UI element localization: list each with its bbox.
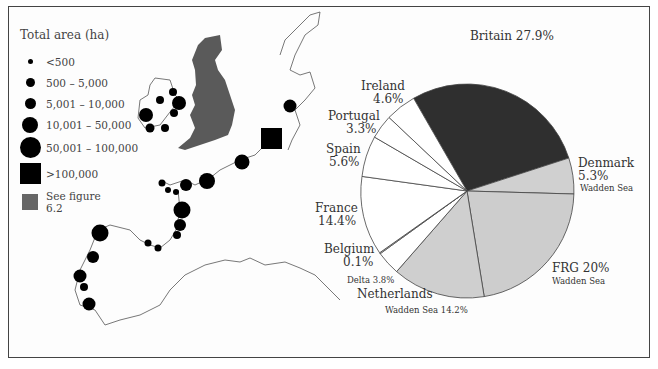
label-netherlands-sub: Wadden Sea 14.2% — [385, 305, 468, 315]
legend-item-5001-10000: 5,001 – 10,000 — [14, 93, 138, 114]
britain-map — [178, 35, 235, 150]
grey-square-icon — [22, 194, 38, 210]
label-france-pct: 14.4% — [318, 215, 356, 228]
label-netherlands: Netherlands — [357, 288, 433, 301]
legend-item-gt100000: >100,000 — [14, 160, 138, 187]
square-icon — [20, 163, 41, 184]
legend-item-see-figure: See figure 6.2 — [14, 187, 138, 217]
label-britain: Britain 27.9% — [470, 30, 554, 43]
dot-icon — [22, 117, 38, 133]
netherlands-square — [261, 128, 282, 149]
label-denmark-pct: 5.3% — [578, 170, 609, 183]
legend: Total area (ha) <500 500 – 5,000 5,001 –… — [14, 28, 138, 217]
legend-item-50001-100000: 50,001 – 100,000 — [14, 135, 138, 160]
label-denmark-sub: Wadden Sea — [580, 183, 633, 193]
label-ireland-pct: 4.6% — [373, 93, 404, 106]
large-dot-icon — [20, 137, 41, 158]
label-delta: Delta 3.8% — [347, 275, 394, 285]
norway-denmark-coast — [280, 12, 320, 150]
legend-title: Total area (ha) — [20, 28, 138, 42]
legend-item-500-5000: 500 – 5,000 — [14, 72, 138, 93]
dot-icon — [25, 98, 36, 109]
legend-item-lt500: <500 — [14, 51, 138, 72]
label-frg-sub: Wadden Sea — [552, 276, 605, 286]
legend-item-10001-50000: 10,001 – 50,000 — [14, 114, 138, 135]
label-portugal-pct: 3.3% — [346, 123, 377, 136]
label-belgium-pct: 0.1% — [343, 256, 374, 269]
label-spain-pct: 5.6% — [329, 156, 360, 169]
label-frg: FRG 20% — [552, 262, 609, 275]
pie-chart — [361, 84, 574, 298]
small-dot-icon — [28, 59, 33, 64]
dot-icon — [26, 78, 35, 87]
